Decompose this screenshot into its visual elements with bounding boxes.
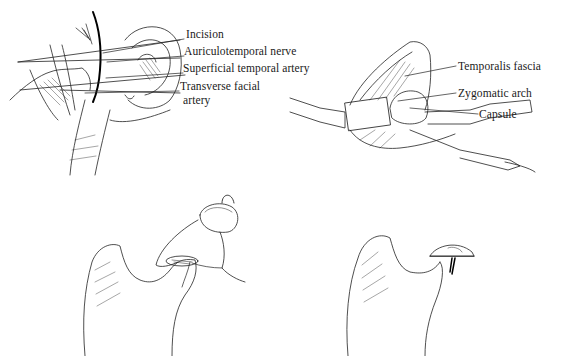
- label-temporalis-fascia: Temporalis fascia: [458, 60, 541, 72]
- label-superficial-temporal-artery: Superficial temporal artery: [183, 62, 310, 74]
- label-auriculotemporal-nerve: Auriculotemporal nerve: [184, 45, 296, 57]
- label-incision: Incision: [186, 28, 224, 40]
- panel-a-ear-drawing: [10, 12, 185, 175]
- label-capsule: Capsule: [479, 108, 517, 120]
- label-transverse-facial-artery-line2: artery: [183, 94, 210, 106]
- panel-d-condyle-drawing: [347, 236, 474, 356]
- surgical-illustration: Incision Auriculotemporal nerve Superfic…: [0, 0, 563, 356]
- label-transverse-facial-artery: Transverse facial: [180, 80, 260, 92]
- label-zygomatic-arch: Zygomatic arch: [458, 87, 532, 99]
- panel-c-condyle-drawing: [84, 195, 245, 356]
